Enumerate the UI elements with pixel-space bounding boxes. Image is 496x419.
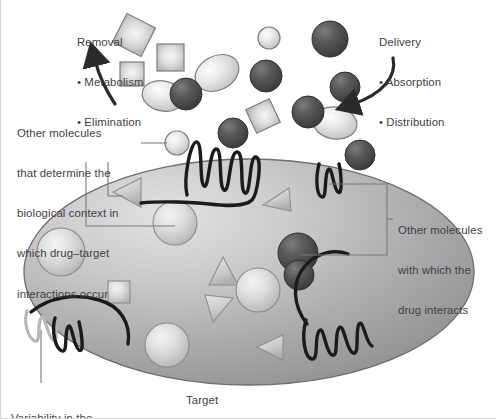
interacts-line-1: Other molecules: [398, 224, 482, 237]
sphere-dark-c: [312, 21, 348, 57]
context-line-1: Other molecules: [17, 127, 119, 140]
variability-line-1: Variability in the: [11, 412, 92, 419]
sphere-dark-a: [170, 78, 202, 110]
interacts-label: Other molecules with which the drug inte…: [398, 197, 482, 344]
delivery-bullet-distribution: • Distribution: [379, 116, 445, 129]
variability-label: Variability in the target molecule: [11, 385, 92, 419]
sphere-dark-g: [345, 140, 375, 170]
delivery-heading: Delivery: [379, 36, 445, 49]
extracellular-molecules: [105, 6, 375, 170]
context-line-3: biological context in: [17, 207, 119, 220]
pharmacology-diagram: Removal • Metabolism • Elimination Deliv…: [0, 0, 496, 419]
context-line-4: which drug–target: [17, 247, 119, 260]
circle-tagged-upper: [153, 201, 197, 245]
delivery-bullet-absorption: • Absorption: [379, 76, 445, 89]
sphere-dark-f: [292, 96, 324, 128]
context-line-5: interactions occur: [17, 288, 119, 301]
diamond-light-b: [246, 99, 281, 134]
sphere-dark-e: [218, 118, 248, 148]
sphere-light-tagged: [165, 131, 189, 155]
interacts-line-2: with which the: [398, 264, 482, 277]
square-light-b: [157, 44, 184, 71]
context-label: Other molecules that determine the biolo…: [17, 100, 119, 328]
sphere-light-small: [258, 27, 280, 49]
context-line-2: that determine the: [17, 167, 119, 180]
removal-heading: Removal: [77, 36, 144, 49]
sphere-dark-d: [330, 72, 360, 102]
circle-bottom: [145, 323, 189, 367]
sphere-dark-b: [250, 60, 282, 92]
target-label: Target: [186, 394, 218, 407]
delivery-label: Delivery • Absorption • Distribution: [379, 9, 445, 156]
circle-center: [236, 268, 280, 312]
removal-bullet-metabolism: • Metabolism: [77, 76, 144, 89]
interacts-line-3: drug interacts: [398, 304, 482, 317]
